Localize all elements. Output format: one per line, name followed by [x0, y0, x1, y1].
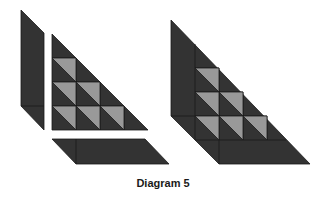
right-figure: [171, 20, 310, 164]
left-strip: [21, 10, 44, 130]
diagram-caption: Diagram 5: [0, 177, 326, 189]
diagram-canvas: [0, 0, 326, 203]
left-figure: [21, 10, 169, 164]
bottom-strip: [52, 139, 169, 164]
